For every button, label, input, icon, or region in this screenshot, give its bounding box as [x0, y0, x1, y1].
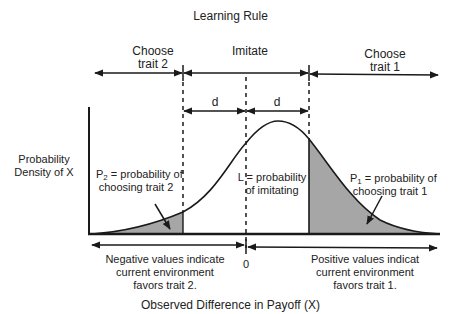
d-left-label: d: [205, 96, 225, 109]
imitate-label: Imitate: [210, 45, 290, 58]
x-axis-label: Observed Difference in Payoff (X): [0, 299, 461, 312]
positive-range-arrow: [248, 247, 437, 248]
p2-shaded-area: [92, 212, 183, 234]
choose-trait1-label: Choose trait 1: [350, 48, 420, 74]
choose-trait2-label: Choose trait 2: [118, 45, 188, 71]
d-right-label: d: [267, 96, 287, 109]
p2-annotation: P2 = probability of choosing trait 2: [96, 168, 176, 194]
positive-note: Positive values indicat current environm…: [300, 253, 430, 292]
zero-label: 0: [236, 258, 256, 271]
choose-trait1-arrow: [310, 74, 438, 75]
negative-note: Negative values indicate current environ…: [100, 253, 230, 292]
y-axis-label: Probability Density of X: [14, 153, 74, 179]
diagram-title: Learning Rule: [0, 10, 461, 23]
p1-annotation: P1 = probability of choosing trait 1: [350, 172, 430, 198]
l-annotation: L = probability of imitating: [232, 171, 312, 197]
